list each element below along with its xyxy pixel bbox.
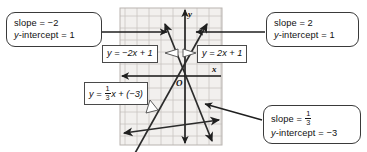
y-axis-label: y [188,9,192,19]
callout-right-bottom-line2-rest: -intercept = −3 [276,128,337,138]
equation-left-text: y = −2x + 1 [107,48,153,58]
callout-right-top-line1: slope = 2 [274,17,352,29]
callout-right-bottom-prefix: slope = [271,114,305,124]
equation-box-slope-2: y = 2x + 1 [197,45,247,63]
equation-box-negative-2: y = −2x + 1 [102,45,158,63]
fraction-denominator: 3 [105,94,111,102]
callout-left-top-line1: slope = −2 [14,17,95,29]
fraction-denominator: 3 [305,119,311,127]
callout-slope-one-third: slope = 13 y-intercept = −3 [263,105,361,144]
fraction-one-third: 13 [305,110,311,127]
callout-right-top-line2-rest: -intercept = 1 [279,30,335,40]
callout-right-top-line2: y-intercept = 1 [274,29,352,41]
equation-bottom-suffix: x + (−3) [111,89,143,99]
callout-left-top-line2-rest: -intercept = 1 [19,30,75,40]
x-axis-label: x [212,64,217,74]
equation-right-text: y = 2x + 1 [202,48,242,58]
callout-left-top-line2: y-intercept = 1 [14,29,95,41]
equation-bottom-prefix: y = [89,89,104,99]
origin-label: O [176,78,183,88]
linear-equations-figure: y x O slope = −2 y-intercept = 1 slope =… [0,0,367,152]
fraction-one-third: 13 [105,85,111,102]
callout-right-bottom-line1: slope = 13 [271,110,354,127]
callout-slope-2: slope = 2 y-intercept = 1 [266,12,359,47]
callout-right-bottom-line2: y-intercept = −3 [271,127,354,139]
equation-box-one-third: y = 13x + (−3) [84,82,148,105]
callout-slope-negative-2: slope = −2 y-intercept = 1 [6,12,102,47]
